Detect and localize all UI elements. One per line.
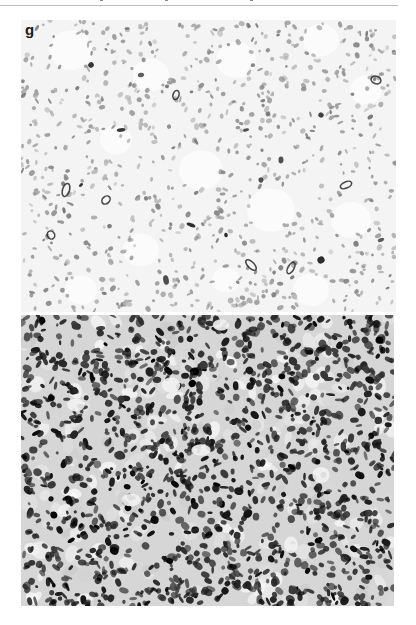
panel-label: g bbox=[25, 22, 34, 37]
micrograph-panel-upper: g bbox=[21, 20, 396, 312]
lower-micrograph-image bbox=[21, 315, 394, 606]
micrograph-panel-lower bbox=[21, 315, 394, 606]
cropped-caption-text bbox=[0, 0, 398, 3]
upper-micrograph-image bbox=[21, 20, 396, 312]
caption-divider-rule bbox=[0, 5, 398, 6]
